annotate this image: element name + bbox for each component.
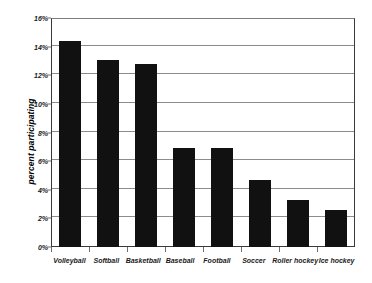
y-axis-tick-label: 6% xyxy=(8,158,48,165)
y-axis-tick-label: 16% xyxy=(8,15,48,22)
y-axis-tick-mark xyxy=(47,161,51,162)
y-axis-tick-mark xyxy=(47,18,51,19)
x-axis-tick-label: Basketball xyxy=(125,255,162,269)
bar-slot xyxy=(241,18,279,247)
x-axis-tick-labels: VolleyballSoftballBasketballBaseballFoot… xyxy=(51,255,355,269)
bar-slot xyxy=(279,18,317,247)
y-axis-tick-label: 2% xyxy=(8,215,48,222)
y-axis-tick-mark xyxy=(47,75,51,76)
x-tick-slot xyxy=(317,247,355,252)
x-axis-tick-mark xyxy=(127,247,128,252)
x-tick-slot xyxy=(89,247,127,252)
x-tick-slot xyxy=(165,247,203,252)
x-tick-slot xyxy=(51,247,89,252)
x-axis-tick-label: Softball xyxy=(88,255,125,269)
y-axis-tick-mark xyxy=(47,189,51,190)
y-axis-tick-mark xyxy=(47,132,51,133)
bar-slot xyxy=(51,18,89,247)
x-axis-tick-label: Roller hockey xyxy=(272,255,318,269)
bar xyxy=(211,148,234,247)
x-axis-tick-mark xyxy=(279,247,280,252)
x-tick-slot xyxy=(279,247,317,252)
y-axis-tick-mark xyxy=(47,218,51,219)
x-tick-slot xyxy=(241,247,279,252)
bar-slot xyxy=(127,18,165,247)
bar xyxy=(325,210,348,247)
bar-slot xyxy=(165,18,203,247)
x-axis-tick-mark xyxy=(203,247,204,252)
bar-slot xyxy=(89,18,127,247)
y-axis-tick-mark xyxy=(47,103,51,104)
x-axis-tick-label: Volleyball xyxy=(51,255,88,269)
bar-slot xyxy=(203,18,241,247)
x-axis-tick-label: Football xyxy=(199,255,236,269)
y-axis-tick-mark xyxy=(47,46,51,47)
bar xyxy=(173,148,196,247)
y-axis-tick-label: 14% xyxy=(8,43,48,50)
bar xyxy=(59,41,82,247)
bar xyxy=(135,64,158,247)
bar xyxy=(287,200,310,247)
x-axis-tick-label: Soccer xyxy=(235,255,272,269)
bar-slot xyxy=(317,18,355,247)
x-tick-slot xyxy=(127,247,165,252)
y-axis-tick-label: 12% xyxy=(8,72,48,79)
bar-chart: percent participating VolleyballSoftball… xyxy=(0,0,372,283)
x-axis-tick-mark xyxy=(89,247,90,252)
y-axis-tick-label: 0% xyxy=(8,244,48,251)
x-axis-tick-mark xyxy=(241,247,242,252)
x-axis-tick-mark xyxy=(51,247,52,252)
x-axis-tick-mark xyxy=(165,247,166,252)
x-axis-tick-label: Baseball xyxy=(162,255,199,269)
bar xyxy=(249,180,272,247)
bar-series xyxy=(51,18,355,247)
y-axis-tick-label: 4% xyxy=(8,186,48,193)
y-axis-tick-label: 10% xyxy=(8,100,48,107)
x-axis-tick-label: Ice hockey xyxy=(318,255,355,269)
x-axis-tick-mark xyxy=(317,247,318,252)
x-tick-slot xyxy=(203,247,241,252)
y-axis-tick-mark xyxy=(47,247,51,248)
y-axis-tick-label: 8% xyxy=(8,129,48,136)
bar xyxy=(97,60,120,247)
x-axis-tick-marks xyxy=(51,247,355,252)
